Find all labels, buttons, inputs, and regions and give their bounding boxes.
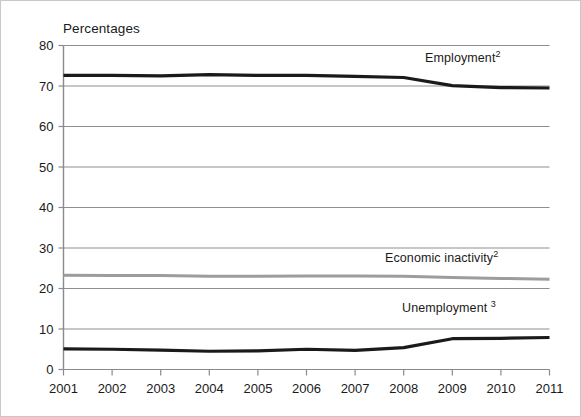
x-tick-label: 2005 (243, 381, 272, 396)
chart-figure: Percentages 0102030405060708020012002200… (0, 0, 581, 417)
series-label-employment-superscript: 2 (495, 49, 500, 59)
series-label-unemployment-superscript: 3 (491, 299, 496, 309)
y-tick-label: 80 (39, 38, 53, 53)
series-label-economic-inactivity-text: Economic inactivity (385, 251, 493, 265)
x-tick-label: 2001 (49, 381, 78, 396)
series-line (64, 338, 550, 352)
x-tick-label: 2010 (486, 381, 515, 396)
y-tick-label: 40 (39, 200, 53, 215)
series-label-unemployment: Unemployment 3 (402, 301, 496, 315)
x-tick-label: 2007 (341, 381, 370, 396)
y-tick-label: 30 (39, 241, 53, 256)
series-label-unemployment-text: Unemployment (402, 301, 487, 315)
y-tick-label: 20 (39, 281, 53, 296)
x-tick-label: 2008 (389, 381, 418, 396)
x-tick-label: 2003 (146, 381, 175, 396)
y-tick-label: 10 (39, 322, 53, 337)
y-tick-label: 60 (39, 119, 53, 134)
x-tick-label: 2011 (536, 381, 564, 396)
series-label-employment: Employment2 (425, 51, 501, 65)
series-label-economic-inactivity: Economic inactivity2 (385, 251, 498, 265)
x-tick-label: 2006 (292, 381, 321, 396)
y-tick-label: 0 (46, 362, 53, 377)
x-tick-label: 2009 (438, 381, 467, 396)
x-tick-label: 2004 (195, 381, 224, 396)
x-tick-label: 2002 (98, 381, 127, 396)
series-line (64, 275, 550, 279)
series-label-employment-text: Employment (425, 51, 495, 65)
series-label-economic-inactivity-superscript: 2 (493, 249, 498, 259)
y-tick-label: 70 (39, 79, 53, 94)
y-tick-label: 50 (39, 160, 53, 175)
